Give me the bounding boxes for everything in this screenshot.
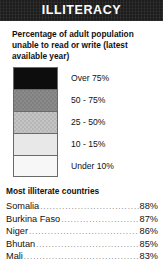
legend-item: Under 10% (13, 155, 153, 177)
legend-item: 10 - 15% (13, 133, 153, 155)
legend-swatch-under-10 (13, 155, 58, 177)
legend-label: Under 10% (71, 155, 114, 177)
legend-label: 10 - 15% (71, 133, 105, 155)
ranking-list: Somalia ................................… (6, 200, 158, 263)
legend-item: 50 - 75% (13, 89, 153, 111)
legend-swatch-25-50 (13, 111, 58, 133)
panel-description: Percentage of adult population unable to… (12, 29, 160, 62)
legend-item: 25 - 50% (13, 111, 153, 133)
legend: Over 75% 50 - 75% 25 - 50% 10 - 15% Unde… (13, 67, 153, 177)
dot-leader: ........................................… (61, 215, 138, 226)
legend-swatch-10-15 (13, 133, 58, 155)
legend-swatch-over-75 (13, 67, 58, 89)
legend-item: Over 75% (13, 67, 153, 89)
legend-label: Over 75% (71, 67, 109, 89)
country-value: 87% (140, 213, 158, 225)
dot-leader: ........................................… (36, 240, 138, 251)
country-value: 83% (140, 250, 158, 262)
list-item: Niger ..................................… (6, 225, 158, 238)
country-name: Niger (6, 225, 28, 237)
list-item: Burkina Faso ...........................… (6, 213, 158, 226)
dot-leader: ........................................… (40, 202, 138, 213)
list-item: Mali ...................................… (6, 250, 158, 263)
country-name: Bhutan (6, 238, 35, 250)
panel-header: ILLITERACY (0, 0, 163, 21)
most-illiterate-countries: Most illiterate countries Somalia ......… (6, 186, 158, 263)
page-title: ILLITERACY (42, 4, 122, 17)
list-item: Bhutan .................................… (6, 238, 158, 251)
ranking-heading: Most illiterate countries (6, 186, 158, 196)
country-value: 86% (140, 225, 158, 237)
country-name: Burkina Faso (6, 213, 60, 225)
dot-leader: ........................................… (29, 227, 139, 238)
country-name: Somalia (6, 200, 39, 212)
dot-leader: ........................................… (24, 252, 139, 263)
country-value: 88% (140, 200, 158, 212)
country-name: Mali (6, 250, 23, 262)
list-item: Somalia ................................… (6, 200, 158, 213)
legend-label: 50 - 75% (71, 89, 105, 111)
country-value: 85% (140, 238, 158, 250)
legend-swatch-50-75 (13, 89, 58, 111)
legend-label: 25 - 50% (71, 111, 105, 133)
